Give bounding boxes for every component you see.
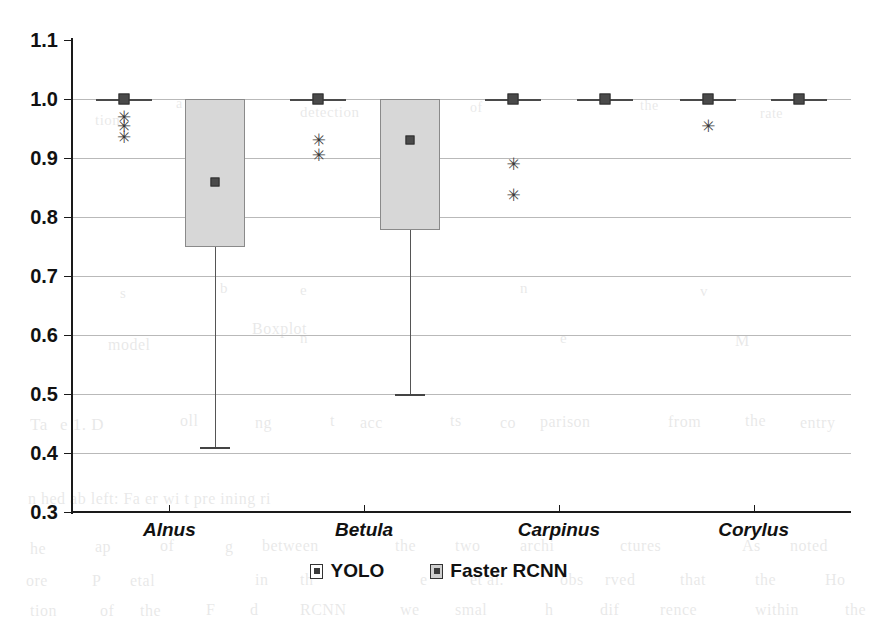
- chart-legend: YOLOFaster RCNN: [0, 560, 878, 582]
- x-tick-mark: [754, 505, 755, 512]
- x-axis-line: [71, 511, 851, 513]
- y-tick-mark: [64, 40, 72, 41]
- rcnn-swatch: [430, 564, 443, 579]
- y-tick-mark: [64, 453, 72, 454]
- y-tick-mark: [64, 512, 72, 513]
- x-tick-mark: [169, 505, 170, 512]
- y-tick-mark: [64, 158, 72, 159]
- x-tick-mark: [559, 505, 560, 512]
- median-marker: [599, 94, 610, 105]
- whisker-lower: [410, 230, 411, 394]
- y-tick-mark: [64, 394, 72, 395]
- median-marker: [794, 94, 805, 105]
- median-marker: [405, 136, 414, 145]
- whisker-lower: [215, 247, 216, 448]
- legend-entry-faster-rcnn[interactable]: Faster RCNN: [430, 560, 567, 582]
- y-tick-mark: [64, 276, 72, 277]
- y-tick-mark: [64, 335, 72, 336]
- box-rect: [380, 99, 440, 230]
- median-marker: [211, 177, 220, 186]
- x-tick-mark: [364, 505, 365, 512]
- yolo-swatch: [310, 564, 323, 579]
- legend-label: Faster RCNN: [450, 560, 567, 582]
- legend-entry-yolo[interactable]: YOLO: [310, 560, 384, 582]
- y-tick-mark: [64, 217, 72, 218]
- whisker-cap-lower: [200, 447, 230, 449]
- box-rect: [185, 99, 245, 247]
- y-tick-mark: [64, 99, 72, 100]
- legend-label: YOLO: [330, 560, 384, 582]
- whisker-cap-lower: [395, 394, 425, 396]
